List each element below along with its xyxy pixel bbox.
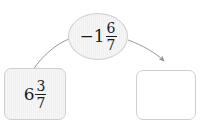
source-numerator: 3 (35, 79, 46, 93)
operation-whole-part: 1 (94, 26, 105, 46)
source-whole-part: 6 (24, 86, 35, 103)
target-tile-answer-blank[interactable] (136, 70, 196, 120)
math-diagram-canvas: −1 6 7 6 3 7 (0, 0, 204, 127)
operation-bubble[interactable]: −1 6 7 (68, 13, 128, 60)
source-fraction: 3 7 (35, 79, 46, 110)
operation-denominator: 7 (106, 38, 117, 52)
minus-sign: − (80, 26, 94, 46)
operation-sign-and-whole: −1 (80, 28, 105, 45)
source-denominator: 7 (35, 96, 46, 110)
operation-numerator: 6 (106, 21, 117, 35)
source-tile[interactable]: 6 3 7 (4, 68, 66, 120)
right-arrow-connector (128, 40, 164, 61)
operation-fraction: 6 7 (106, 21, 117, 52)
source-value: 6 3 7 (24, 79, 47, 110)
left-curve-connector (33, 39, 69, 70)
operation-value: −1 6 7 (80, 21, 117, 52)
